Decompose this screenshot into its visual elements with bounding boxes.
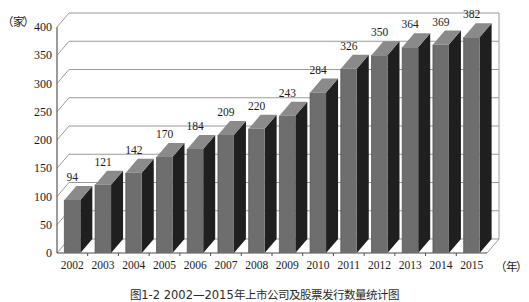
x-axis-tick-label: 2005	[148, 260, 182, 272]
x-axis-tick-label: 2004	[117, 260, 151, 272]
x-axis-tick-label: 2012	[363, 260, 397, 272]
x-axis-tick-label: 2007	[209, 260, 243, 272]
bar-value-label: 94	[54, 172, 90, 184]
y-axis-tick-label: 50	[18, 219, 52, 231]
y-axis-tick-label: 150	[18, 162, 52, 174]
y-axis-tick-label: 200	[18, 134, 52, 146]
bar-value-label: 243	[269, 88, 305, 100]
bar-value-label: 184	[177, 121, 213, 133]
x-axis-tick-label: 2013	[393, 260, 427, 272]
bar-value-label: 326	[331, 41, 367, 53]
y-axis-tick-label: 250	[18, 106, 52, 118]
bar-series	[64, 23, 491, 253]
x-axis-tick-label: 2009	[270, 260, 304, 272]
bar-value-label: 382	[454, 9, 490, 21]
bar-value-label: 284	[300, 65, 336, 77]
bar-value-label: 121	[85, 157, 121, 169]
x-axis-tick-label: 2010	[301, 260, 335, 272]
x-axis-tick-label: 2015	[455, 260, 489, 272]
x-axis-tick-label: 2011	[332, 260, 366, 272]
x-axis-tick-label: 2003	[86, 260, 120, 272]
figure-caption: 图1-2 2002—2015年上市公司及股票发行数量统计图	[0, 289, 529, 302]
y-axis-tick-label: 0	[18, 247, 52, 259]
y-axis-tick-label: 350	[18, 49, 52, 61]
y-axis-tick-label: 400	[18, 21, 52, 33]
y-axis-tick-label: 100	[18, 191, 52, 203]
x-axis-tick-label: 2014	[424, 260, 458, 272]
x-axis-tick-label: 2002	[55, 260, 89, 272]
bar-value-label: 142	[116, 145, 152, 157]
y-axis-tick-label: 300	[18, 78, 52, 90]
x-axis-tick-label: 2006	[178, 260, 212, 272]
x-axis-tick-label: 2008	[240, 260, 274, 272]
bar-value-label: 220	[239, 101, 275, 113]
